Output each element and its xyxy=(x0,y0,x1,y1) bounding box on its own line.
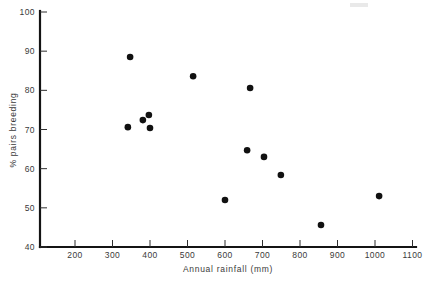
data-point xyxy=(146,112,153,119)
data-point xyxy=(222,197,229,204)
data-point xyxy=(125,124,132,131)
data-point xyxy=(261,154,268,161)
y-tick-label: 50 xyxy=(25,203,35,213)
y-tick-label: 80 xyxy=(25,85,35,95)
plot-canvas: 405060708090100 200300400500600700800900… xyxy=(0,0,433,284)
x-tick-label: 500 xyxy=(180,250,195,260)
data-point xyxy=(278,172,285,179)
axis-lines xyxy=(40,11,416,247)
y-tick-label: 60 xyxy=(25,164,35,174)
data-point xyxy=(140,117,147,124)
faint-artifact-mark xyxy=(350,3,368,7)
y-axis-title: % pairs breeding xyxy=(8,93,18,168)
data-point xyxy=(244,147,251,154)
y-tick-label: 70 xyxy=(25,125,35,135)
y-tick-label: 100 xyxy=(20,7,35,17)
x-tick-label: 800 xyxy=(292,250,307,260)
x-tick-label: 200 xyxy=(67,250,82,260)
y-tick-label: 40 xyxy=(25,242,35,252)
data-point xyxy=(318,222,325,229)
x-axis-tick-labels: 20030040050060070080090010001100 xyxy=(67,250,422,260)
x-axis-title: Annual rainfall (mm) xyxy=(183,264,273,274)
x-tick-label: 900 xyxy=(330,250,345,260)
data-point xyxy=(190,73,197,80)
data-point xyxy=(147,125,154,132)
scatter-plot-figure: 405060708090100 200300400500600700800900… xyxy=(0,0,433,284)
x-tick-label: 300 xyxy=(105,250,120,260)
y-axis-tick-labels: 405060708090100 xyxy=(20,7,35,252)
y-tick-label: 90 xyxy=(25,46,35,56)
x-tick-label: 1100 xyxy=(403,250,423,260)
x-tick-label: 1000 xyxy=(365,250,386,260)
corner-artifact-group xyxy=(350,3,368,7)
x-tick-label: 700 xyxy=(255,250,270,260)
data-point xyxy=(376,193,383,200)
data-point xyxy=(127,54,134,61)
data-point xyxy=(247,85,254,92)
data-point-series xyxy=(125,54,383,229)
x-tick-label: 400 xyxy=(142,250,157,260)
x-tick-label: 600 xyxy=(217,250,232,260)
